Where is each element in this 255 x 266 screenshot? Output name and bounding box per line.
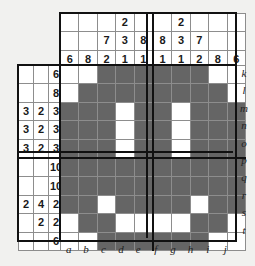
- grid-row[interactable]: [61, 84, 246, 102]
- grid-cell-filled[interactable]: [116, 195, 134, 213]
- grid-cell-empty[interactable]: [116, 214, 134, 232]
- grid-cell-filled[interactable]: [134, 158, 153, 177]
- grid-cell-filled[interactable]: [153, 66, 172, 84]
- grid-cell-filled[interactable]: [116, 66, 134, 84]
- grid-cell-filled[interactable]: [153, 102, 172, 120]
- grid-cell-filled[interactable]: [153, 158, 172, 177]
- grid-cell-filled[interactable]: [209, 177, 227, 195]
- grid-cell-empty[interactable]: [172, 121, 190, 139]
- nonogram-grid-table[interactable]: [60, 65, 246, 251]
- grid-cell-empty[interactable]: [172, 102, 190, 120]
- grid-cell-empty[interactable]: [116, 102, 134, 120]
- grid-cell-filled[interactable]: [172, 195, 190, 213]
- grid-cell-filled[interactable]: [134, 66, 153, 84]
- grid-cell-filled[interactable]: [61, 195, 79, 213]
- grid-cell-filled[interactable]: [190, 214, 208, 232]
- grid-cell-filled[interactable]: [172, 158, 190, 177]
- grid-cell-filled[interactable]: [209, 102, 227, 120]
- column-clue-cell: [209, 32, 227, 50]
- grid-cell-filled[interactable]: [116, 158, 134, 177]
- grid-cell-filled[interactable]: [97, 84, 115, 102]
- grid-cell-filled[interactable]: [61, 158, 79, 177]
- grid-cell-filled[interactable]: [209, 84, 227, 102]
- grid-cell-empty[interactable]: [116, 139, 134, 158]
- grid-cell-empty[interactable]: [190, 195, 208, 213]
- grid-cell-empty[interactable]: [116, 121, 134, 139]
- grid-cell-empty[interactable]: [61, 214, 79, 232]
- grid-cell-filled[interactable]: [79, 195, 97, 213]
- column-label: f: [147, 244, 164, 255]
- grid-cell-filled[interactable]: [97, 158, 115, 177]
- grid-cell-filled[interactable]: [190, 84, 208, 102]
- row-clue-cell: [34, 84, 49, 102]
- grid-cell-filled[interactable]: [190, 102, 208, 120]
- grid-row[interactable]: [61, 121, 246, 139]
- grid-cell-filled[interactable]: [172, 84, 190, 102]
- grid-cell-filled[interactable]: [209, 139, 227, 158]
- grid-cell-filled[interactable]: [116, 84, 134, 102]
- row-clue-cell: 2: [34, 121, 49, 139]
- grid-row[interactable]: [61, 177, 246, 195]
- grid-cell-filled[interactable]: [172, 177, 190, 195]
- grid-cell-filled[interactable]: [134, 195, 153, 213]
- grid-row[interactable]: [61, 66, 246, 84]
- grid-cell-filled[interactable]: [153, 84, 172, 102]
- column-label: a: [60, 244, 77, 255]
- grid-cell-filled[interactable]: [79, 177, 97, 195]
- grid-cell-empty[interactable]: [61, 84, 79, 102]
- grid-cell-filled[interactable]: [79, 158, 97, 177]
- grid-cell-empty[interactable]: [97, 195, 115, 213]
- grid-cell-filled[interactable]: [97, 214, 115, 232]
- grid-cell-filled[interactable]: [79, 102, 97, 120]
- grid-cell-filled[interactable]: [61, 177, 79, 195]
- grid-cell-filled[interactable]: [153, 195, 172, 213]
- grid-cell-filled[interactable]: [134, 139, 153, 158]
- grid-cell-filled[interactable]: [190, 158, 208, 177]
- grid-cell-filled[interactable]: [209, 214, 227, 232]
- grid-cell-filled[interactable]: [190, 177, 208, 195]
- grid-row[interactable]: [61, 158, 246, 177]
- grid-cell-filled[interactable]: [79, 121, 97, 139]
- grid-cell-filled[interactable]: [134, 177, 153, 195]
- grid-cell-empty[interactable]: [134, 214, 153, 232]
- grid-cell-filled[interactable]: [97, 139, 115, 158]
- grid-cell-filled[interactable]: [79, 214, 97, 232]
- grid-cell-filled[interactable]: [209, 158, 227, 177]
- grid-cell-filled[interactable]: [97, 102, 115, 120]
- grid-cell-filled[interactable]: [190, 66, 208, 84]
- row-clue-cell: 2: [34, 214, 49, 232]
- grid-cell-filled[interactable]: [79, 139, 97, 158]
- grid-cell-filled[interactable]: [97, 66, 115, 84]
- grid-cell-filled[interactable]: [172, 66, 190, 84]
- grid-cell-filled[interactable]: [190, 139, 208, 158]
- grid-cell-filled[interactable]: [153, 139, 172, 158]
- grid-row[interactable]: [61, 214, 246, 232]
- grid-cell-empty[interactable]: [172, 139, 190, 158]
- grid-cell-filled[interactable]: [134, 84, 153, 102]
- grid-cell-filled[interactable]: [153, 177, 172, 195]
- grid-cell-filled[interactable]: [209, 121, 227, 139]
- grid-cell-empty[interactable]: [153, 214, 172, 232]
- grid-cell-filled[interactable]: [97, 121, 115, 139]
- grid-cell-filled[interactable]: [209, 195, 227, 213]
- grid-row[interactable]: [61, 102, 246, 120]
- grid-cell-filled[interactable]: [116, 177, 134, 195]
- grid-cell-empty[interactable]: [79, 66, 97, 84]
- row-label: n: [237, 117, 251, 134]
- grid-cell-filled[interactable]: [61, 121, 79, 139]
- grid-cell-filled[interactable]: [97, 177, 115, 195]
- grid-cell-filled[interactable]: [79, 84, 97, 102]
- grid-cell-empty[interactable]: [172, 214, 190, 232]
- grid-cell-filled[interactable]: [134, 102, 153, 120]
- grid-cell-empty[interactable]: [209, 66, 227, 84]
- grid-cell-empty[interactable]: [61, 66, 79, 84]
- grid-cell-filled[interactable]: [61, 139, 79, 158]
- grid-cell-filled[interactable]: [153, 121, 172, 139]
- grid-cell-filled[interactable]: [134, 121, 153, 139]
- grid-cell-filled[interactable]: [61, 102, 79, 120]
- grid-row[interactable]: [61, 139, 246, 158]
- grid-cell-filled[interactable]: [190, 121, 208, 139]
- nonogram-grid-body[interactable]: [61, 66, 246, 251]
- row-clue-cell: 2: [34, 139, 49, 158]
- grid-row[interactable]: [61, 195, 246, 213]
